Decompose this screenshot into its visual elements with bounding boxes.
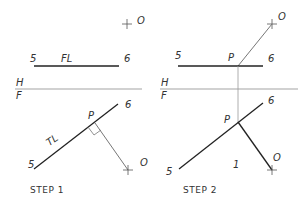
step1-label-fl: FL — [61, 53, 72, 64]
step1-label-p: P — [88, 110, 95, 121]
step1-label-tl: TL — [44, 132, 60, 148]
step1-label-h: H — [16, 77, 24, 88]
step1-panel: O 5 FL 6 H F 6 P TL O 5 STEP 1 — [15, 15, 148, 195]
step2-label-o-top: O — [278, 11, 286, 22]
step1-label-5-bottom: 5 — [28, 159, 34, 170]
step1-label-6-bottom: 6 — [125, 99, 131, 110]
step2-label-p: P — [224, 114, 231, 125]
step2-label-6-top: 6 — [268, 53, 274, 64]
step1-label-5-top: 5 — [30, 53, 36, 64]
step2-label-5-top: 5 — [175, 50, 181, 61]
step1-caption: STEP 1 — [30, 185, 64, 195]
step1-label-f: F — [16, 90, 22, 101]
step2-label-6-bottom: 6 — [268, 95, 274, 106]
step2-label-5-bottom: 5 — [166, 166, 172, 177]
step2-distance-line — [238, 122, 272, 170]
step2-point-o-bottom-marker — [267, 165, 277, 175]
step2-label-f: F — [161, 90, 167, 101]
descriptive-geometry-diagram: O 5 FL 6 H F 6 P TL O 5 STEP 1 O 5 P 6 H… — [0, 0, 298, 203]
step2-label-o-bottom: O — [273, 152, 281, 163]
step2-true-length-line — [179, 103, 263, 169]
step1-label-6-top: 6 — [124, 53, 130, 64]
step1-point-o-bottom-marker — [123, 165, 133, 175]
step1-label-o-bottom: O — [140, 157, 148, 168]
step2-label-1: 1 — [233, 159, 239, 170]
step2-label-h: H — [161, 77, 169, 88]
step2-caption: STEP 2 — [183, 185, 217, 195]
step2-panel: O 5 P 6 H F 6 P 1 O 5 STEP 2 — [160, 11, 298, 195]
step2-label-p-top: P — [228, 52, 235, 63]
step1-perpendicular-line — [95, 123, 128, 170]
step2-line-p-to-o-top — [238, 24, 272, 66]
step1-point-o-top-marker — [122, 19, 132, 29]
step1-label-o-top: O — [137, 15, 145, 26]
